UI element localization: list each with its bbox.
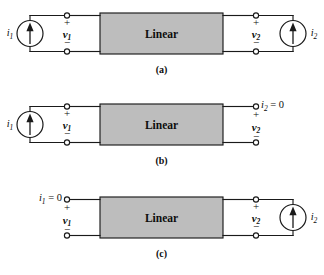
label-b-right-minus: − xyxy=(253,130,259,142)
circuit-diagram-svg: Linear i1 + v1 − v2 xyxy=(0,0,324,275)
label-a-right-current: i2 xyxy=(311,27,318,41)
label-b-right-current-zero: i2 = 0 xyxy=(261,99,284,113)
label-a-left-current: i1 xyxy=(7,27,14,41)
label-a-left-plus: + xyxy=(64,16,70,28)
label-c-left-plus: + xyxy=(64,201,70,213)
caption-a: (a) xyxy=(156,64,168,76)
terminal-a-right-bottom xyxy=(253,49,258,54)
label-c-right-plus: + xyxy=(253,200,259,212)
label-b-right-plus: + xyxy=(253,108,259,120)
label-c-right-minus: − xyxy=(253,220,259,232)
label-a-right-minus: − xyxy=(253,36,259,48)
terminal-a-left-bottom xyxy=(64,49,69,54)
label-c-left-current-zero: i1 = 0 xyxy=(39,192,62,206)
circuit-c: Linear i1 = 0 + v1 − v2 + − i2 (c) xyxy=(39,192,318,260)
linear-box-label-b: Linear xyxy=(145,119,178,131)
circuit-b: Linear i1 + v1 − i2 = 0 + v2 − (b) xyxy=(7,99,284,167)
terminal-b-left-bottom xyxy=(64,140,69,145)
label-c-left-minus: − xyxy=(64,223,70,235)
terminal-c-right-bottom xyxy=(253,233,258,238)
caption-b: (b) xyxy=(155,155,167,167)
label-b-left-plus: + xyxy=(64,107,70,119)
figure-root: Linear i1 + v1 − v2 xyxy=(0,0,324,275)
label-a-right-plus: + xyxy=(253,16,259,28)
circuit-a: Linear i1 + v1 − v2 xyxy=(7,13,318,76)
caption-c: (c) xyxy=(156,248,167,260)
label-c-right-current: i2 xyxy=(311,211,318,225)
linear-box-label-c: Linear xyxy=(145,212,178,224)
label-b-left-current: i1 xyxy=(7,118,14,132)
label-b-left-minus: − xyxy=(64,127,70,139)
linear-box-label-a: Linear xyxy=(145,28,178,40)
label-a-left-minus: − xyxy=(64,36,70,48)
